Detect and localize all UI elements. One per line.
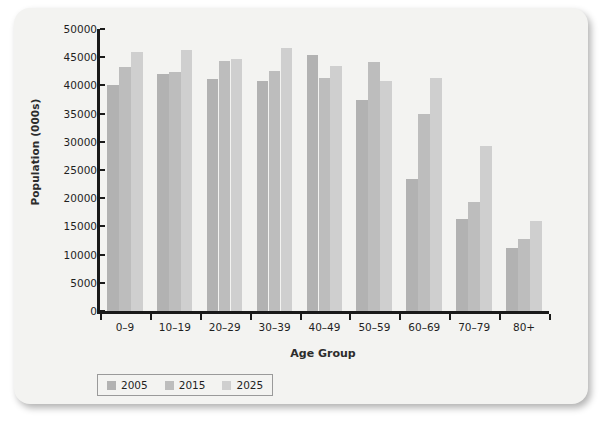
x-axis-tick-mark <box>399 314 401 320</box>
bar <box>430 78 442 311</box>
x-axis-tick-label: 20–29 <box>209 321 241 333</box>
chart-legend: 200520152025 <box>97 374 273 396</box>
bar <box>530 221 542 311</box>
x-axis-tick-label: 10–19 <box>159 321 191 333</box>
bar <box>406 179 418 311</box>
y-axis-tick-label: 40000 <box>33 79 97 91</box>
legend-label: 2025 <box>236 379 263 391</box>
x-axis-line <box>97 311 549 314</box>
x-axis-tick-mark <box>300 314 302 320</box>
x-axis-tick-mark <box>250 314 252 320</box>
legend-swatch-icon <box>222 381 231 390</box>
x-axis-title: Age Group <box>97 347 549 360</box>
x-axis-tick-mark <box>100 314 102 320</box>
bar <box>330 66 342 311</box>
bar <box>468 202 480 311</box>
y-axis-tick-label: 0 <box>33 305 97 317</box>
x-axis-tick-label: 70–79 <box>458 321 490 333</box>
y-axis-tick-label: 25000 <box>33 164 97 176</box>
legend-swatch-icon <box>107 381 116 390</box>
y-axis-tick-mark <box>100 28 105 30</box>
legend-item[interactable]: 2015 <box>165 379 206 391</box>
y-axis-tick-mark <box>100 141 105 143</box>
y-axis-tick-label: 10000 <box>33 249 97 261</box>
y-axis-tick-mark <box>100 282 105 284</box>
bar <box>219 61 231 311</box>
y-axis-tick-label: 50000 <box>33 23 97 35</box>
bar <box>356 100 368 312</box>
y-axis-tick-mark <box>100 56 105 58</box>
bar <box>281 48 293 311</box>
x-axis-tick-mark <box>549 314 551 320</box>
y-axis-tick-mark <box>100 169 105 171</box>
y-axis-tick-label: 15000 <box>33 220 97 232</box>
legend-item[interactable]: 2005 <box>107 379 148 391</box>
y-axis-tick-mark <box>100 84 105 86</box>
bar <box>131 52 143 311</box>
x-axis-tick-label: 30–39 <box>259 321 291 333</box>
y-axis-tick-label: 5000 <box>33 277 97 289</box>
y-axis-tick-labels: 0500010000150002000025000300003500040000… <box>14 8 97 404</box>
bar <box>257 81 269 311</box>
y-axis-tick-label: 30000 <box>33 136 97 148</box>
y-axis-tick-mark <box>100 225 105 227</box>
chart-card: Population (000s) 0500010000150002000025… <box>14 8 588 404</box>
y-axis-line <box>97 29 100 313</box>
x-axis-tick-label: 0–9 <box>116 321 135 333</box>
bar-chart: Population (000s) 0500010000150002000025… <box>14 8 588 404</box>
y-axis-tick-label: 35000 <box>33 108 97 120</box>
y-axis-tick-mark <box>100 113 105 115</box>
legend-label: 2015 <box>179 379 206 391</box>
bar <box>480 146 492 311</box>
x-axis-tick-label: 40–49 <box>309 321 341 333</box>
x-axis-tick-mark <box>349 314 351 320</box>
bar <box>157 74 169 311</box>
y-axis-tick-label: 20000 <box>33 192 97 204</box>
bar <box>181 50 193 311</box>
bar <box>319 78 331 311</box>
bar <box>380 81 392 311</box>
bar <box>307 55 319 311</box>
bar <box>506 248 518 311</box>
bar <box>518 239 530 311</box>
bar <box>418 114 430 311</box>
legend-item[interactable]: 2025 <box>222 379 263 391</box>
bar <box>169 72 181 311</box>
x-axis-tick-mark <box>499 314 501 320</box>
x-axis-tick-mark <box>150 314 152 320</box>
legend-swatch-icon <box>165 381 174 390</box>
bar <box>207 79 219 311</box>
bar <box>456 219 468 311</box>
y-axis-tick-label: 45000 <box>33 51 97 63</box>
x-axis-tick-mark <box>449 314 451 320</box>
bar <box>368 62 380 311</box>
legend-label: 2005 <box>121 379 148 391</box>
bar <box>119 67 131 311</box>
y-axis-tick-mark <box>100 254 105 256</box>
x-axis-tick-mark <box>200 314 202 320</box>
y-axis-tick-mark <box>100 197 105 199</box>
x-axis-tick-label: 60–69 <box>408 321 440 333</box>
bar <box>231 59 243 311</box>
bar <box>269 71 281 311</box>
x-axis-tick-label: 80+ <box>513 321 535 333</box>
x-axis-tick-label: 50–59 <box>358 321 390 333</box>
bar <box>107 85 119 311</box>
